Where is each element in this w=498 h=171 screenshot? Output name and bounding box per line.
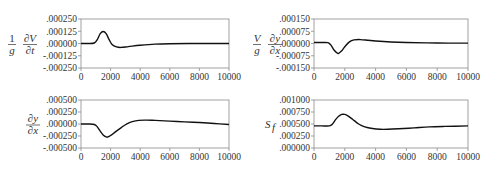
y-tick-label: .000150 <box>279 14 310 24</box>
y-tick-label: -.000150 <box>276 63 310 73</box>
x-tick-label: 2000 <box>335 152 354 162</box>
svg-text:∂x: ∂x <box>28 124 38 136</box>
y-tick-label: .000250 <box>46 14 77 24</box>
y-axis-label: Vg∂y∂x <box>253 32 282 56</box>
subplot-dVdt: .000250.000125.000000-.000125-.000250020… <box>8 14 241 82</box>
y-tick-label: .000750 <box>279 107 310 117</box>
y-tick-label: .000500 <box>279 119 310 129</box>
data-line <box>81 120 229 137</box>
x-tick-label: 2000 <box>335 72 354 82</box>
svg-text:f: f <box>272 121 277 133</box>
x-tick-label: 0 <box>312 72 317 82</box>
y-tick-label: -.000250 <box>43 131 77 141</box>
y-tick-label: .000000 <box>279 143 310 153</box>
data-line <box>314 40 468 54</box>
y-axis-label: ∂y∂x <box>26 112 40 136</box>
y-tick-label: .001000 <box>279 95 310 105</box>
y-tick-label: .000000 <box>279 39 310 49</box>
x-tick-label: 0 <box>79 152 84 162</box>
x-tick-label: 6000 <box>160 72 179 82</box>
x-tick-label: 10000 <box>456 72 480 82</box>
subplot-Sf: .001000.000750.000500.000250.00000002000… <box>265 95 480 162</box>
y-tick-label: -.000125 <box>43 51 77 61</box>
x-tick-label: 4000 <box>131 152 150 162</box>
y-tick-label: .000075 <box>279 27 310 37</box>
x-tick-label: 4000 <box>131 72 150 82</box>
y-tick-label: -.000250 <box>43 63 77 73</box>
svg-text:∂V: ∂V <box>24 32 37 44</box>
x-tick-label: 10000 <box>456 152 480 162</box>
subplot-V_g_dydx: .000150.000075.000000-.000075-.000150020… <box>253 14 480 82</box>
figure: .000250.000125.000000-.000125-.000250020… <box>0 0 498 171</box>
x-tick-label: 6000 <box>397 152 416 162</box>
x-tick-label: 0 <box>79 72 84 82</box>
plot-frame <box>314 100 468 148</box>
y-axis-label: Sf <box>265 118 277 133</box>
y-axis-label: 1g∂V∂t <box>8 32 37 56</box>
svg-text:∂t: ∂t <box>26 44 35 56</box>
data-line <box>314 114 468 129</box>
svg-text:V: V <box>254 32 262 44</box>
x-tick-label: 2000 <box>101 152 120 162</box>
x-tick-label: 6000 <box>397 72 416 82</box>
subplot-dydx: .000500.000250.000000-.000250-.000500020… <box>26 95 241 162</box>
svg-text:∂y: ∂y <box>270 32 280 44</box>
y-tick-label: .000000 <box>46 39 77 49</box>
y-tick-label: .000250 <box>279 131 310 141</box>
x-tick-label: 2000 <box>101 72 120 82</box>
x-tick-label: 10000 <box>217 72 241 82</box>
x-tick-label: 10000 <box>217 152 241 162</box>
x-tick-label: 8000 <box>428 72 447 82</box>
x-tick-label: 4000 <box>366 152 385 162</box>
y-tick-label: .000125 <box>46 27 77 37</box>
plot-frame <box>81 100 229 148</box>
x-tick-label: 0 <box>312 152 317 162</box>
y-tick-label: .000000 <box>46 119 77 129</box>
svg-text:∂x: ∂x <box>270 44 280 56</box>
y-tick-label: .000250 <box>46 107 77 117</box>
x-tick-label: 8000 <box>428 152 447 162</box>
x-tick-label: 6000 <box>160 152 179 162</box>
svg-text:g: g <box>254 44 260 56</box>
y-tick-label: -.000500 <box>43 143 77 153</box>
data-line <box>81 32 229 48</box>
y-tick-label: .000500 <box>46 95 77 105</box>
y-tick-label: -.000075 <box>276 51 310 61</box>
x-tick-label: 4000 <box>366 72 385 82</box>
svg-text:g: g <box>9 44 15 56</box>
x-tick-label: 8000 <box>190 72 209 82</box>
svg-text:∂y: ∂y <box>28 112 38 124</box>
svg-text:S: S <box>265 118 271 130</box>
svg-text:1: 1 <box>9 32 15 44</box>
x-tick-label: 8000 <box>190 152 209 162</box>
